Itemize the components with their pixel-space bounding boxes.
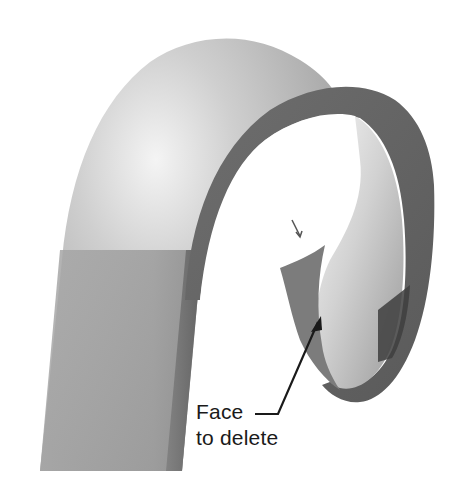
cad-figure: Face to delete <box>0 0 463 496</box>
callout-arrow-icon <box>255 316 322 414</box>
callout-label-line-2: to delete <box>196 425 278 451</box>
callout-label-line-1: Face <box>196 399 244 425</box>
